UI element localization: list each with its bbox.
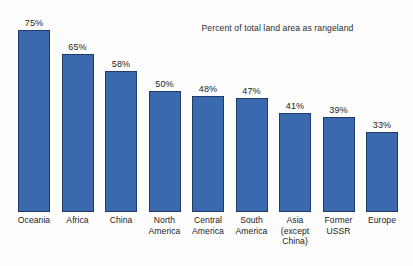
bar-value-label: 47% xyxy=(230,86,274,96)
bar[interactable] xyxy=(18,30,50,212)
bar-value-label: 58% xyxy=(99,59,143,69)
plot-area: 75%Oceania65%Africa58%China50%NorthAmeri… xyxy=(0,0,413,266)
category-label: NorthAmerica xyxy=(140,215,190,236)
bar[interactable] xyxy=(192,96,224,212)
category-label-line: North xyxy=(140,215,190,226)
category-label-line: America xyxy=(140,226,190,237)
bar[interactable] xyxy=(105,71,137,212)
bar[interactable] xyxy=(366,132,398,212)
category-label: Europe xyxy=(357,215,407,226)
bar[interactable] xyxy=(149,91,181,212)
bar[interactable] xyxy=(323,117,355,212)
category-label-line: South xyxy=(227,215,277,226)
bar-group: 75%Oceania xyxy=(12,30,56,212)
category-label-line: Former xyxy=(314,215,364,226)
category-label-line: Africa xyxy=(53,215,103,226)
bar-value-label: 33% xyxy=(360,120,404,130)
category-label-line: America xyxy=(183,226,233,237)
category-label-line: America xyxy=(227,226,277,237)
bar-value-label: 50% xyxy=(143,79,187,89)
category-label-line: China xyxy=(96,215,146,226)
category-label: China xyxy=(96,215,146,226)
category-label-line: USSR xyxy=(314,226,364,237)
bar-group: 41%Asia(exceptChina) xyxy=(273,113,317,212)
category-label-line: (except xyxy=(270,226,320,237)
bar-group: 33%Europe xyxy=(360,132,404,212)
bar[interactable] xyxy=(236,98,268,212)
bar-value-label: 39% xyxy=(317,105,361,115)
bar-group: 47%SouthAmerica xyxy=(230,98,274,212)
category-label-line: Europe xyxy=(357,215,407,226)
category-label: Africa xyxy=(53,215,103,226)
bar-value-label: 75% xyxy=(12,18,56,28)
category-label-line: China) xyxy=(270,236,320,247)
category-label: Oceania xyxy=(9,215,59,226)
category-label: Asia(exceptChina) xyxy=(270,215,320,247)
category-label: CentralAmerica xyxy=(183,215,233,236)
bar-group: 39%FormerUSSR xyxy=(317,117,361,212)
category-label: SouthAmerica xyxy=(227,215,277,236)
category-label-line: Asia xyxy=(270,215,320,226)
bar-group: 48%CentralAmerica xyxy=(186,96,230,212)
bar-value-label: 65% xyxy=(56,42,100,52)
bar-value-label: 41% xyxy=(273,101,317,111)
bar[interactable] xyxy=(279,113,311,212)
category-label: FormerUSSR xyxy=(314,215,364,236)
bar-value-label: 48% xyxy=(186,84,230,94)
category-label-line: Oceania xyxy=(9,215,59,226)
bar-chart: Percent of total land area as rangeland … xyxy=(0,0,413,266)
bar[interactable] xyxy=(62,54,94,212)
category-label-line: Central xyxy=(183,215,233,226)
bar-group: 65%Africa xyxy=(56,54,100,212)
bar-group: 58%China xyxy=(99,71,143,212)
bar-group: 50%NorthAmerica xyxy=(143,91,187,212)
